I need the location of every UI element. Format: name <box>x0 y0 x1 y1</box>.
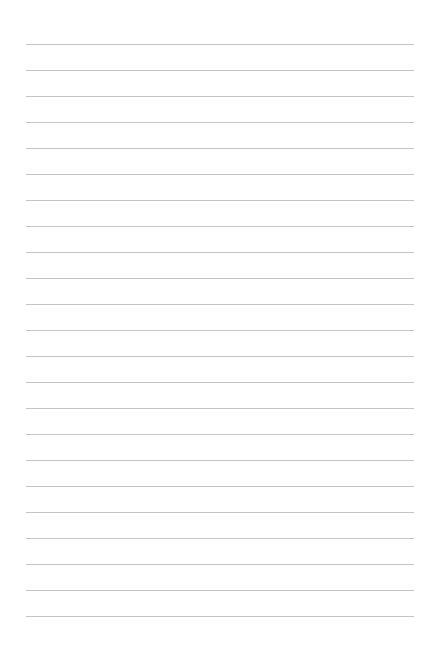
ruled-line <box>26 44 414 45</box>
ruled-line <box>26 616 414 617</box>
ruled-line <box>26 434 414 435</box>
ruled-line <box>26 252 414 253</box>
ruled-line <box>26 382 414 383</box>
ruled-line <box>26 408 414 409</box>
ruled-lines-area <box>0 0 424 662</box>
ruled-line <box>26 278 414 279</box>
ruled-line <box>26 486 414 487</box>
ruled-line <box>26 148 414 149</box>
ruled-line <box>26 512 414 513</box>
ruled-line <box>26 356 414 357</box>
ruled-line <box>26 174 414 175</box>
ruled-line <box>26 200 414 201</box>
ruled-line <box>26 70 414 71</box>
lined-paper-sheet <box>0 0 424 662</box>
ruled-line <box>26 122 414 123</box>
ruled-line <box>26 226 414 227</box>
ruled-line <box>26 304 414 305</box>
ruled-line <box>26 564 414 565</box>
ruled-line <box>26 460 414 461</box>
ruled-line <box>26 330 414 331</box>
ruled-line <box>26 538 414 539</box>
ruled-line <box>26 96 414 97</box>
ruled-line <box>26 590 414 591</box>
